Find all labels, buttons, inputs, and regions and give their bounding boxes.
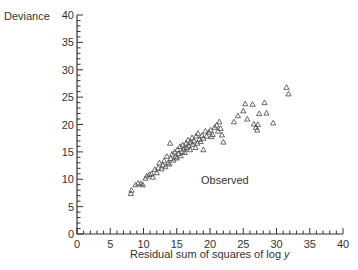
y-tick-label: 10 — [62, 173, 74, 185]
triangle-marker — [245, 116, 250, 121]
triangle-marker — [191, 138, 196, 143]
triangle-marker — [286, 91, 291, 96]
y-tick-label: 25 — [62, 91, 74, 103]
triangle-marker — [168, 141, 173, 146]
y-tick-label: 30 — [62, 64, 74, 76]
x-axis-title-var: y — [283, 248, 291, 260]
triangle-marker — [271, 120, 276, 125]
triangle-marker — [243, 101, 248, 106]
y-tick-label: 20 — [62, 119, 74, 131]
x-tick-label: 35 — [304, 238, 316, 250]
scatter-chart: 05101520253035400510152025303540 Devianc… — [0, 0, 358, 270]
x-axis-title-main: Residual sum of squares of log — [130, 248, 284, 260]
triangle-marker — [164, 154, 169, 159]
triangle-marker — [217, 119, 222, 124]
y-tick-label: 15 — [62, 146, 74, 158]
y-tick-label: 0 — [68, 228, 74, 240]
triangle-marker — [241, 108, 246, 113]
x-tick-label: 5 — [107, 238, 113, 250]
x-tick-label: 40 — [337, 238, 349, 250]
axes: 05101520253035400510152025303540 — [62, 9, 349, 250]
x-axis-title: Residual sum of squares of log y — [130, 248, 291, 260]
y-tick-label: 35 — [62, 36, 74, 48]
triangle-marker — [284, 85, 289, 90]
triangle-marker — [193, 145, 198, 150]
triangle-marker — [162, 158, 167, 163]
y-tick-label: 5 — [68, 201, 74, 213]
triangle-marker — [235, 113, 240, 118]
triangle-marker — [231, 119, 236, 124]
triangle-marker — [221, 139, 226, 144]
triangle-marker — [262, 100, 267, 105]
y-axis-title: Deviance — [4, 10, 50, 22]
y-tick-label: 40 — [62, 9, 74, 21]
x-tick-label: 0 — [74, 238, 80, 250]
triangle-marker — [264, 110, 269, 115]
triangle-marker — [201, 147, 206, 152]
triangle-marker — [257, 111, 262, 116]
triangle-marker — [250, 102, 255, 107]
observed-annotation: Observed — [201, 174, 249, 186]
